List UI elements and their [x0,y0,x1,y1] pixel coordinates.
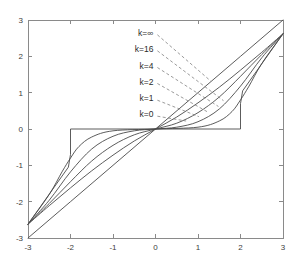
x-tick-label: 0 [153,243,158,252]
y-tick-label: 3 [19,16,24,25]
x-tick-label: 3 [281,243,286,252]
x-tick-label: 2 [238,243,243,252]
plot-canvas: -3-2-10123 -3-2-10123 k=∞k=16k=4k=2k=1k=… [0,0,298,263]
y-tick-label: -2 [16,198,24,207]
y-tick-label: -1 [16,161,24,170]
y-tick-label: -3 [16,234,24,243]
y-tick-label: 2 [19,52,24,61]
series-label: k=0 [139,109,153,119]
series-label: k=1 [139,93,153,103]
x-tick-label: -3 [24,243,32,252]
x-tick-label: -1 [109,243,117,252]
y-tick-label: 1 [19,89,24,98]
series-label: k=∞ [138,28,153,38]
x-tick-label: -2 [67,243,75,252]
series-label: k=2 [139,77,153,87]
series-label: k=16 [135,44,154,54]
figure-container: -3-2-10123 -3-2-10123 k=∞k=16k=4k=2k=1k=… [0,0,298,263]
y-tick-label: 0 [19,125,24,134]
x-tick-label: 1 [196,243,201,252]
series-label: k=4 [139,61,153,71]
